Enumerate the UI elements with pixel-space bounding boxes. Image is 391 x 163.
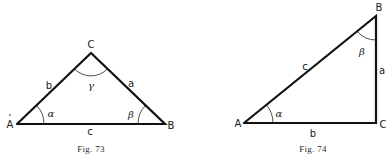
side-a-label-74: a — [379, 65, 385, 76]
angle-alpha-arc-74 — [267, 105, 274, 123]
side-b-label-73: b — [46, 80, 52, 91]
side-a-label-73: a — [128, 78, 134, 89]
angle-beta-arc-73 — [138, 105, 146, 124]
side-c-label-73: c — [87, 126, 93, 137]
figure-caption-73: Fig. 73 — [77, 144, 105, 154]
side-c-label-74: c — [302, 61, 308, 72]
figure-73: C A B b a c γ α β Fig. 73 — [7, 39, 175, 154]
vertex-b-label-74: B — [376, 2, 383, 13]
vertex-a-label-74: A — [235, 118, 242, 129]
figure-caption-74: Fig. 74 — [299, 144, 327, 154]
angle-alpha-label-74: α — [276, 108, 283, 119]
angle-beta-label-73: β — [127, 109, 134, 120]
angle-beta-arc-74 — [357, 31, 376, 40]
angle-beta-label-74: β — [358, 46, 365, 57]
vertex-a-label-73: A — [7, 119, 14, 130]
triangle-74-outline — [244, 16, 376, 123]
angle-alpha-arc-73 — [37, 105, 45, 124]
vertex-c-label-74: C — [380, 119, 387, 130]
side-b-label-74: b — [310, 128, 316, 139]
figure-74: B A C c a b α β Fig. 74 — [235, 2, 387, 154]
figures-canvas: C A B b a c γ α β Fig. 73 B A C c a b α … — [0, 0, 391, 163]
angle-gamma-arc-73 — [75, 69, 108, 76]
vertex-a-dot-73 — [9, 114, 11, 116]
vertex-c-label-73: C — [88, 39, 95, 50]
vertex-b-label-73: B — [168, 120, 175, 131]
angle-gamma-label-73: γ — [88, 80, 94, 91]
angle-alpha-label-73: α — [48, 108, 55, 119]
